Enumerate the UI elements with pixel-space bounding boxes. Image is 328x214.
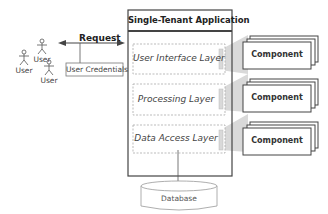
user-actor-left: User (14, 49, 34, 75)
app-title: Single-Tenant Application (128, 15, 232, 25)
component-label: Component (243, 136, 311, 145)
layer-data-access[interactable]: Data Access Layer (133, 125, 219, 153)
layer-label: User Interface Layer (133, 53, 219, 63)
component-label: Component (243, 93, 311, 102)
user-label: User (39, 76, 59, 85)
user-icon (32, 38, 52, 55)
layer-label: Data Access Layer (133, 133, 219, 143)
user-label: User (14, 66, 34, 75)
user-icon (14, 49, 34, 66)
request-label: Request (79, 33, 121, 43)
database-label: Database (141, 194, 217, 203)
component-1[interactable]: Component (243, 42, 311, 69)
database-cylinder[interactable]: Database (141, 181, 217, 211)
user-icon (39, 59, 59, 76)
component-3[interactable]: Component (243, 128, 311, 155)
component-2[interactable]: Component (243, 85, 311, 112)
user-actor-bottom: User (39, 59, 59, 85)
component-label: Component (243, 50, 311, 59)
user-credentials-box: User Credentials (66, 65, 123, 74)
layer-user-interface[interactable]: User Interface Layer (133, 44, 219, 74)
layer-processing[interactable]: Processing Layer (133, 84, 219, 115)
layer-label: Processing Layer (133, 94, 219, 104)
